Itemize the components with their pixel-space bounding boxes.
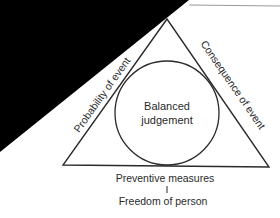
center-label-line1: Balanced xyxy=(144,100,190,112)
center-label-line2: judgement xyxy=(140,114,192,126)
bottom-sublabel: Freedom of person xyxy=(119,195,208,207)
bottom-label: Preventive measures xyxy=(116,172,215,184)
black-corner-mask xyxy=(0,0,189,152)
right-side-label: Consequence of event xyxy=(199,38,269,131)
balanced-judgement-circle xyxy=(115,61,219,165)
diagram-canvas: Balanced judgement Probability of event … xyxy=(0,0,280,218)
top-edge-line xyxy=(189,5,280,6)
